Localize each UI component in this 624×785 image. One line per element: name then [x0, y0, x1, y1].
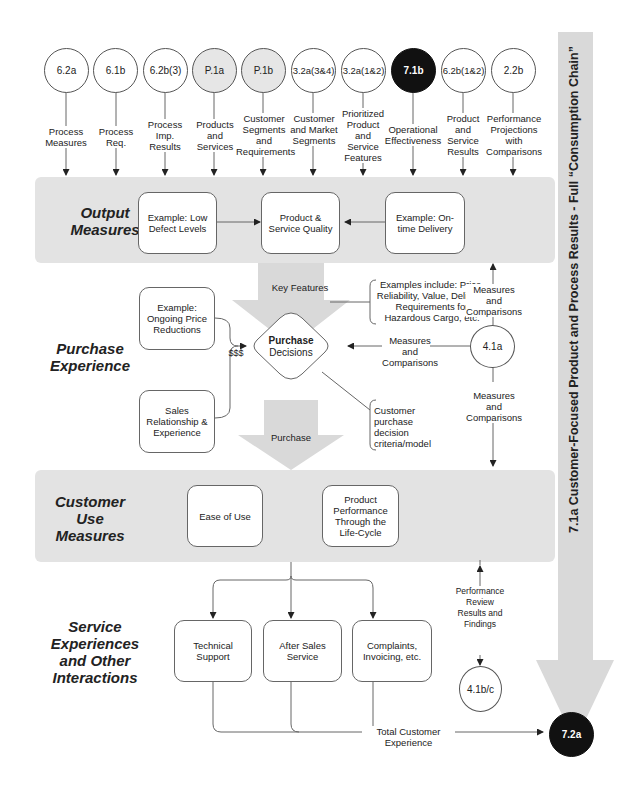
node-label: 4.1b/c [467, 684, 494, 695]
section-customer-use-measures: Customer Use Measures [55, 493, 125, 544]
box-product-performance[interactable]: Product Performance Through the Life-Cyc… [322, 485, 399, 547]
node-4-1bc[interactable]: 4.1b/c [459, 666, 502, 712]
label-total-customer-experience: Total Customer Experience [362, 726, 455, 748]
node-label: 7.2a [562, 729, 581, 740]
node-label: 4.1a [483, 341, 502, 352]
label-measures-up: Measures and Comparisons [466, 284, 522, 317]
label-performance-review: Performance Review Results and Findings [452, 586, 508, 630]
box-technical-support[interactable]: Technical Support [174, 620, 252, 682]
label-decisions: Decisions [258, 347, 324, 359]
section-service-experiences: Service Experiences and Other Interactio… [40, 618, 150, 686]
label-purchase-arrow: Purchase [264, 432, 318, 443]
label-purchase-decisions: Purchase Decisions [258, 335, 324, 359]
label-measures-down: Measures and Comparisons [466, 390, 522, 423]
box-complaints-invoicing[interactable]: Complaints, Invoicing, etc. [352, 620, 432, 682]
note-criteria: Customer purchase decision criteria/mode… [374, 405, 438, 449]
label-purchase-bold: Purchase [258, 335, 324, 347]
diagram-title: 7.1a Customer-Focused Product and Proces… [567, 143, 583, 533]
box-ease-of-use[interactable]: Ease of Use [187, 485, 263, 547]
node-4-1a[interactable]: 4.1a [470, 325, 515, 368]
box-after-sales-service[interactable]: After Sales Service [263, 620, 342, 682]
label-measures-left: Measures and Comparisons [382, 335, 438, 368]
node-7-2a[interactable]: 7.2a [549, 712, 594, 757]
